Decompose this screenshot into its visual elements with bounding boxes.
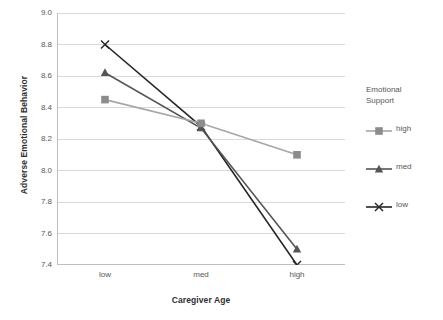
- legend-label: high: [396, 125, 411, 133]
- y-tick-label: 7.8: [22, 198, 52, 206]
- y-axis-tick-labels: 9.0 8.8 8.6 8.4 8.2 8.0 7.8 7.6 7.4: [18, 13, 52, 265]
- y-tick-label: 7.6: [22, 230, 52, 238]
- x-tick-label: low: [57, 270, 153, 279]
- legend-label: med: [396, 163, 412, 171]
- x-axis-title: Caregiver Age: [57, 295, 345, 305]
- chart-legend: EmotionalSupport high med: [366, 85, 442, 237]
- line-chart: Adverse Emotional Behavior 9.0 8.8 8.6 8…: [0, 0, 443, 320]
- legend-item-high[interactable]: high: [366, 123, 442, 135]
- x-tick-label: med: [153, 270, 249, 279]
- legend-title: EmotionalSupport: [366, 85, 442, 107]
- plot-area: [57, 13, 345, 265]
- legend-title-line2: Support: [366, 96, 394, 105]
- x-tick-label: high: [249, 270, 345, 279]
- y-tick-label: 8.2: [22, 135, 52, 143]
- series-low: [101, 41, 301, 266]
- y-tick-label: 8.0: [22, 167, 52, 175]
- legend-item-med[interactable]: med: [366, 161, 442, 173]
- series-med: [101, 68, 301, 252]
- y-tick-label: 8.6: [22, 72, 52, 80]
- legend-label: low: [396, 201, 408, 209]
- x-axis-tick-labels: low med high: [57, 270, 345, 286]
- legend-item-low[interactable]: low: [366, 199, 442, 211]
- y-tick-label: 8.8: [22, 41, 52, 49]
- triangle-marker-icon: [366, 161, 392, 173]
- x-marker-icon: [366, 199, 392, 211]
- y-tick-label: 9.0: [22, 9, 52, 17]
- plot-canvas: [57, 13, 345, 265]
- square-marker-icon: [366, 123, 392, 135]
- y-tick-label: 8.4: [22, 104, 52, 112]
- y-tick-label: 7.4: [22, 261, 52, 269]
- legend-title-line1: Emotional: [366, 85, 402, 94]
